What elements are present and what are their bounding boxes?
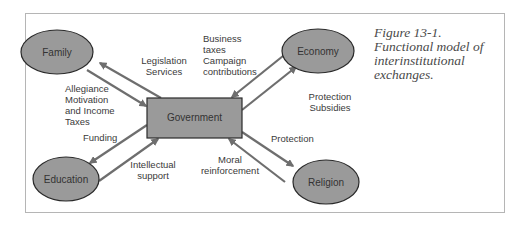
svg-text:Protection: Protection: [271, 133, 314, 144]
edge-label-gov-to-economy: Protection Subsidies: [309, 91, 352, 113]
edge-label-education-to-gov: Intellectual support: [130, 159, 175, 181]
svg-text:and Income: and Income: [65, 105, 115, 116]
edge-label-religion-to-gov: Moral reinforcement: [201, 154, 259, 176]
svg-text:Protection: Protection: [309, 91, 352, 102]
node-religion: Religion: [293, 160, 359, 204]
arrow-gov-to-education: [90, 125, 147, 163]
node-government: Government: [147, 98, 242, 138]
edge-label-economy-to-gov: Business taxes Campaign contributions: [203, 33, 257, 77]
edge-label-gov-to-religion: Protection: [271, 133, 314, 144]
node-education: Education: [33, 157, 99, 201]
figure-caption: Figure 13-1. Functional model of interin…: [374, 26, 509, 82]
svg-text:Motivation: Motivation: [65, 94, 108, 105]
node-education-label: Education: [44, 174, 88, 185]
svg-text:reinforcement: reinforcement: [201, 165, 259, 176]
edge-label-family-to-gov: Allegiance Motivation and Income Taxes: [65, 83, 115, 127]
node-economy-label: Economy: [297, 46, 339, 57]
svg-text:Services: Services: [146, 66, 183, 77]
node-family: Family: [21, 30, 93, 74]
svg-text:Allegiance: Allegiance: [65, 83, 109, 94]
caption-line-3: interinstitutional: [374, 54, 509, 68]
svg-text:Legislation: Legislation: [141, 55, 186, 66]
node-government-label: Government: [167, 112, 222, 123]
edge-label-gov-to-family: Legislation Services: [141, 55, 186, 77]
svg-text:support: support: [137, 170, 169, 181]
svg-text:Intellectual: Intellectual: [130, 159, 175, 170]
node-economy: Economy: [282, 29, 354, 73]
svg-text:taxes: taxes: [203, 44, 226, 55]
caption-line-2: Functional model of: [374, 40, 509, 54]
svg-text:Funding: Funding: [83, 132, 117, 143]
edge-label-gov-to-education: Funding: [83, 132, 117, 143]
svg-text:Subsidies: Subsidies: [309, 102, 350, 113]
svg-text:Campaign: Campaign: [203, 55, 246, 66]
svg-text:Business: Business: [203, 33, 242, 44]
svg-text:contributions: contributions: [203, 66, 257, 77]
svg-text:Moral: Moral: [218, 154, 242, 165]
caption-line-1: Figure 13-1.: [374, 26, 509, 40]
caption-line-4: exchanges.: [374, 68, 509, 82]
svg-text:Taxes: Taxes: [65, 116, 90, 127]
node-family-label: Family: [42, 47, 71, 58]
node-religion-label: Religion: [308, 177, 344, 188]
